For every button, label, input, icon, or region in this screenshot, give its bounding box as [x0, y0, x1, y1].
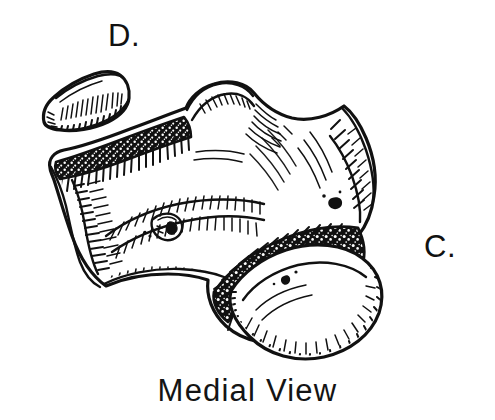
bone-illustration [0, 0, 495, 420]
figure-label-d: D. [108, 20, 140, 51]
figure-caption: Medial View [0, 375, 495, 406]
figure-label-c: C. [424, 231, 456, 262]
anatomical-figure: D. C. Medial View [0, 0, 495, 420]
detached-bone-fragment [43, 72, 129, 134]
